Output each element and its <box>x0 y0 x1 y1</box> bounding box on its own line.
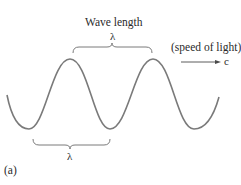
wave-diagram: Wave length λ (speed of light) c λ (a) <box>0 0 241 185</box>
lambda-bottom-label: λ <box>67 151 72 162</box>
speed-of-light-label: (speed of light) <box>171 42 241 54</box>
bottom-brace <box>33 139 110 149</box>
wavelength-title: Wave length <box>85 17 143 29</box>
c-symbol-label: c <box>224 56 229 67</box>
top-brace <box>73 43 152 53</box>
sine-wave <box>7 59 219 129</box>
lambda-top-label: λ <box>110 31 115 42</box>
panel-label: (a) <box>4 165 17 177</box>
arrow-head-icon <box>215 60 221 64</box>
